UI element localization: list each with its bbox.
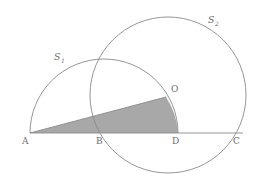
point-label-o: O (171, 84, 178, 94)
point-label-c: C (233, 136, 240, 146)
point-label-a: A (21, 136, 29, 146)
geometry-canvas: A B D C O S 1 S 2 (0, 0, 258, 187)
curve-label-s1: S (54, 51, 61, 62)
curve-label-s1-subscript: 1 (61, 57, 65, 64)
point-label-d: D (172, 136, 179, 146)
point-label-b: B (96, 136, 103, 146)
curve-label-s2-subscript: 2 (214, 20, 219, 27)
shaded-sector (30, 97, 178, 133)
curve-label-s2: S (208, 14, 215, 25)
geometry-figure: A B D C O S 1 S 2 (0, 0, 258, 187)
